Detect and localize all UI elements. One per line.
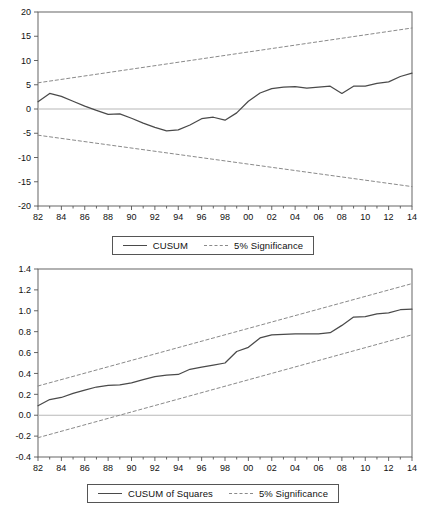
x-axis-tick-label: 06 [313, 212, 323, 222]
legend-label-cusum: CUSUM [153, 240, 188, 251]
x-axis-tick-label: 90 [126, 463, 136, 473]
cusum-stability-tests-figure: 20151050-5-10-15-20828486889092949698000… [0, 0, 426, 510]
x-axis-tick-label: 98 [220, 463, 230, 473]
cusum-plot: 20151050-5-10-15-20828486889092949698000… [0, 0, 426, 228]
y-axis-tick-label: 0.4 [18, 369, 31, 379]
y-axis-tick-label: 1.2 [18, 285, 31, 295]
y-axis-tick-label: -20 [18, 201, 31, 211]
significance-band-line-1 [38, 28, 412, 83]
solid-line-icon [98, 493, 122, 494]
dashed-line-icon [229, 493, 253, 494]
legend-box: CUSUM of Squares 5% Significance [87, 484, 339, 503]
x-axis-tick-label: 14 [407, 212, 417, 222]
x-axis-tick-label: 10 [360, 212, 370, 222]
y-axis-tick-label: 0.2 [18, 390, 31, 400]
y-axis-tick-label: -0.4 [15, 452, 31, 462]
y-axis-tick-label: 0.8 [18, 327, 31, 337]
x-axis-tick-label: 06 [313, 463, 323, 473]
x-axis-tick-label: 82 [33, 212, 43, 222]
y-axis-tick-label: 10 [21, 56, 31, 66]
x-axis-tick-label: 88 [103, 212, 113, 222]
legend-item-significance: 5% Significance [204, 240, 303, 251]
significance-band-line-2 [38, 135, 412, 186]
solid-line-icon [123, 245, 147, 246]
legend-item-cusum-of-squares: CUSUM of Squares [98, 488, 213, 499]
y-axis-tick-label: 5 [26, 80, 31, 90]
y-axis-tick-label: 20 [21, 7, 31, 17]
x-axis-tick-label: 02 [267, 212, 277, 222]
y-axis-tick-label: -10 [18, 153, 31, 163]
x-axis-tick-label: 12 [384, 212, 394, 222]
cusum-chart: 20151050-5-10-15-20828486889092949698000… [0, 0, 426, 262]
x-axis-tick-label: 08 [337, 212, 347, 222]
x-axis-tick-label: 04 [290, 463, 300, 473]
x-axis-tick-label: 96 [197, 212, 207, 222]
series-line-cusum-squares [38, 309, 412, 406]
x-axis-tick-label: 86 [80, 463, 90, 473]
y-axis-tick-label: 1.0 [18, 306, 31, 316]
x-axis-tick-label: 14 [407, 463, 417, 473]
y-axis-tick-label: 15 [21, 31, 31, 41]
x-axis-tick-label: 90 [126, 212, 136, 222]
y-axis-tick-label: 0 [26, 104, 31, 114]
x-axis-tick-label: 94 [173, 212, 183, 222]
cusum-of-squares-chart: 1.41.21.00.80.60.40.20.0-0.2-0.482848688… [0, 258, 426, 510]
x-axis-tick-label: 00 [243, 212, 253, 222]
x-axis-tick-label: 00 [243, 463, 253, 473]
x-axis-tick-label: 92 [150, 463, 160, 473]
y-axis-tick-label: -15 [18, 177, 31, 187]
dashed-line-icon [204, 245, 228, 246]
y-axis-tick-label: 0.0 [18, 410, 31, 420]
legend-label-significance: 5% Significance [234, 240, 303, 251]
cusum-of-squares-legend: CUSUM of Squares 5% Significance [0, 480, 426, 503]
x-axis-tick-label: 12 [384, 463, 394, 473]
legend-label-significance: 5% Significance [259, 488, 328, 499]
x-axis-tick-label: 88 [103, 463, 113, 473]
x-axis-tick-label: 82 [33, 463, 43, 473]
legend-item-significance: 5% Significance [229, 488, 328, 499]
y-axis-tick-label: 0.6 [18, 348, 31, 358]
x-axis-tick-label: 84 [56, 463, 66, 473]
legend-box: CUSUM 5% Significance [112, 236, 314, 255]
x-axis-tick-label: 02 [267, 463, 277, 473]
legend-item-cusum: CUSUM [123, 240, 188, 251]
x-axis-tick-label: 84 [56, 212, 66, 222]
x-axis-tick-label: 94 [173, 463, 183, 473]
y-axis-tick-label: -0.2 [15, 431, 31, 441]
x-axis-tick-label: 92 [150, 212, 160, 222]
legend-label-cusum-of-squares: CUSUM of Squares [128, 488, 213, 499]
x-axis-tick-label: 86 [80, 212, 90, 222]
x-axis-tick-label: 08 [337, 463, 347, 473]
series-line-cusum [38, 73, 412, 131]
x-axis-tick-label: 98 [220, 212, 230, 222]
significance-band-line-2 [38, 335, 412, 438]
significance-band-line-1 [38, 284, 412, 386]
x-axis-tick-label: 96 [197, 463, 207, 473]
y-axis-tick-label: -5 [23, 128, 31, 138]
x-axis-tick-label: 04 [290, 212, 300, 222]
cusum-of-squares-plot: 1.41.21.00.80.60.40.20.0-0.2-0.482848688… [0, 258, 426, 476]
y-axis-tick-label: 1.4 [18, 264, 31, 274]
cusum-legend: CUSUM 5% Significance [0, 232, 426, 255]
x-axis-tick-label: 10 [360, 463, 370, 473]
